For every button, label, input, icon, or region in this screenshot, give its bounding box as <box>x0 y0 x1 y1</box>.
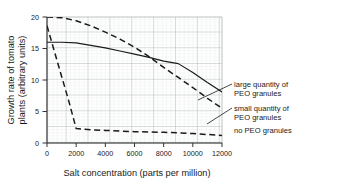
y-tick-label-15: 15 <box>31 44 39 53</box>
line-chart: 0 5 10 15 20 0 2000 4000 6000 8000 10000 <box>0 0 339 192</box>
plot-grid <box>47 17 222 143</box>
y-tick-label-5: 5 <box>35 107 39 116</box>
x-tick-label-4000: 4000 <box>97 149 113 158</box>
y-tick-label-0: 0 <box>35 139 39 148</box>
y-tick-label-20: 20 <box>31 13 39 22</box>
x-tick-label-6000: 6000 <box>127 149 143 158</box>
y-axis-title: Growth rate of tomato plants (arbitrary … <box>6 36 27 125</box>
chart-figure: 0 5 10 15 20 0 2000 4000 6000 8000 10000 <box>0 0 339 192</box>
legend-label-small-quantity-line2: PEO granules <box>234 113 281 122</box>
y-axis-title-line2: plants (arbitrary units) <box>17 36 27 125</box>
y-tick-label-10: 10 <box>31 76 39 85</box>
legend-label-no-granules: no PEO granules <box>234 126 292 135</box>
x-tick-label-12000: 12000 <box>212 149 232 158</box>
x-tick-label-2000: 2000 <box>68 149 84 158</box>
legend-entry-no-granules: no PEO granules <box>234 126 292 135</box>
x-tick-label-10000: 10000 <box>183 149 203 158</box>
x-axis-title: Salt concentration (parts per million) <box>63 168 210 178</box>
legend-label-large-quantity-line2: PEO granules <box>234 89 281 98</box>
legend-label-large-quantity-line1: large quantity of <box>234 80 289 89</box>
legend-label-small-quantity-line1: small quantity of <box>234 104 290 113</box>
y-axis-title-line1: Growth rate of tomato <box>6 36 16 125</box>
x-tick-label-8000: 8000 <box>156 149 172 158</box>
x-tick-label-0: 0 <box>45 149 49 158</box>
